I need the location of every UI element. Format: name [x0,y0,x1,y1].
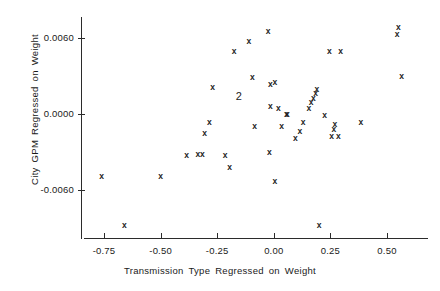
plot-area: 0.00600.0000-0.0060 -0.75-0.50-0.250.000… [0,0,440,291]
data-point: x [356,118,365,127]
x-tick-mark [274,233,275,239]
data-point: x [397,72,406,81]
data-point: x [120,221,129,230]
x-tick-mark [217,233,218,239]
data-point-cluster: 2 [233,91,244,102]
data-point: x [225,163,234,172]
data-point: x [208,83,217,92]
data-point: x [198,150,207,159]
x-tick-mark [387,233,388,239]
data-point: x [325,47,334,56]
data-point: x [205,118,214,127]
x-axis-title: Transmission Type Regressed on Weight [0,265,440,276]
x-tick-label: -0.25 [194,245,240,256]
x-tick-label: 0.25 [307,245,353,256]
data-point: x [299,118,308,127]
x-tick-label: 0.50 [364,245,410,256]
x-tick-mark [330,233,331,239]
data-point: x [270,177,279,186]
x-axis-line [84,238,428,239]
data-point: x [250,122,259,131]
data-point: x [330,120,339,129]
x-tick-mark [161,233,162,239]
y-tick-mark [78,190,85,191]
data-point: x [244,37,253,46]
data-point: x [97,172,106,181]
data-point: x [315,221,324,230]
y-tick-mark [78,38,85,39]
y-axis-line [81,17,82,239]
data-point: x [336,47,345,56]
data-point: x [182,151,191,160]
data-point: x [312,85,321,94]
data-point: x [270,78,279,87]
data-point: x [320,111,329,120]
y-axis-title: City GPM Regressed on Weight [29,10,40,210]
data-point: x [277,122,286,131]
x-tick-mark [104,233,105,239]
data-point: x [334,132,343,141]
scatter-plot-figure: 0.00600.0000-0.0060 -0.75-0.50-0.250.000… [0,0,440,291]
data-point: x [230,47,239,56]
data-point: x [265,148,274,157]
x-tick-label: 0.00 [251,245,297,256]
data-point: x [394,23,403,32]
x-tick-label: -0.50 [138,245,184,256]
data-point: x [264,27,273,36]
y-tick-mark [78,114,85,115]
data-point: x [200,129,209,138]
data-point: x [156,172,165,181]
data-point: x [221,151,230,160]
data-point: x [283,110,292,119]
data-point: x [248,73,257,82]
data-point: x [295,127,304,136]
x-tick-label: -0.75 [81,245,127,256]
